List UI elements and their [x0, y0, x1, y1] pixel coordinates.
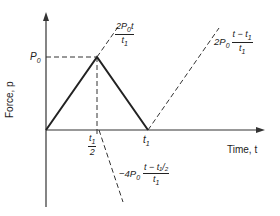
y-axis-arrow-icon [43, 12, 49, 21]
rebound-line [148, 28, 219, 130]
x-axis-arrow-icon [256, 127, 265, 133]
half-t1-tick-label: t1 2 [88, 134, 96, 158]
t1-tick-label: t1 [143, 135, 150, 147]
p0-label: P0 [30, 52, 41, 64]
rebound-expression: 2P0 t − t1 t1 [214, 30, 253, 55]
rise-expression: 2P0t t1 [115, 22, 134, 47]
x-axis-label: Time, t [227, 145, 257, 155]
y-axis-label: Force, p [4, 81, 15, 118]
fall-expression: −4P0 t − t₁/₂ t1 [119, 163, 169, 187]
